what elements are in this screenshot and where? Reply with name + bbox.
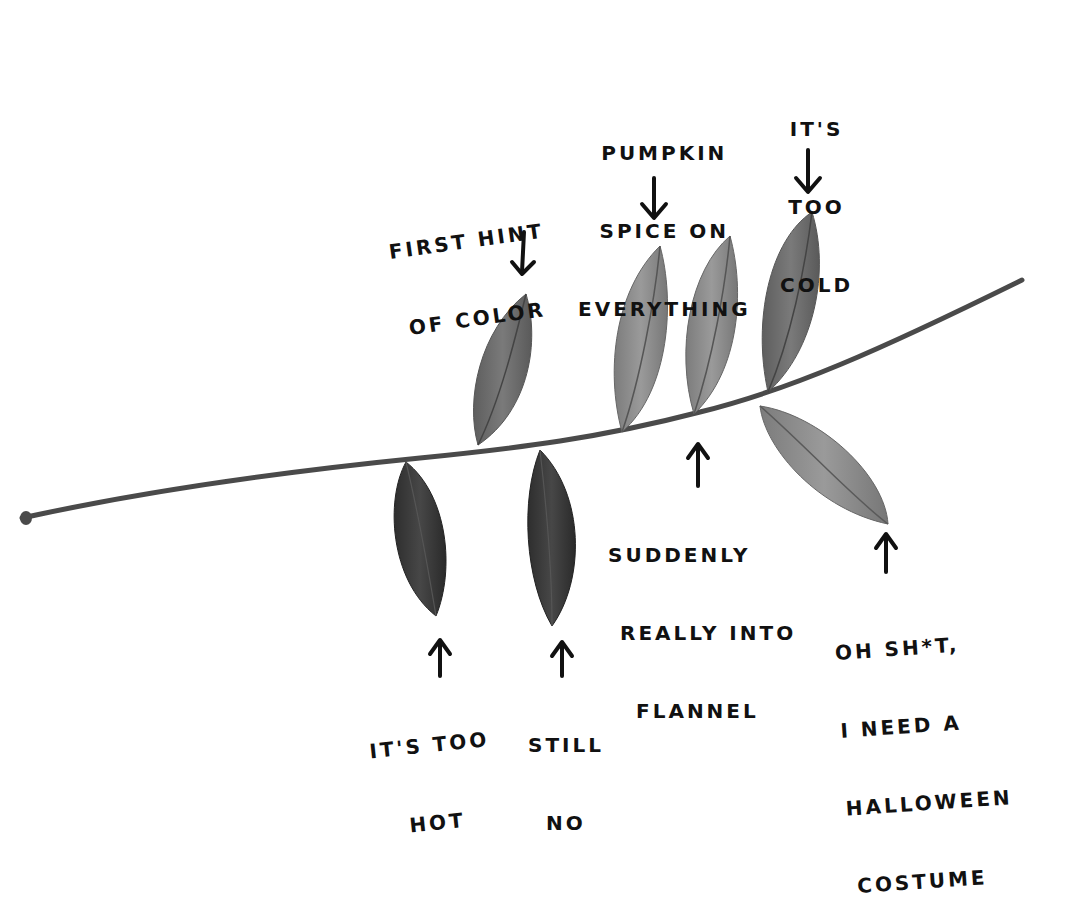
stem-end <box>20 511 32 525</box>
arrow-up-halloween <box>876 534 896 572</box>
label-halloween-costume: OH SH*T, I NEED A HALLOWEEN COSTUME <box>830 577 1020 897</box>
leaf-still-no <box>528 450 576 626</box>
label-still-no: STILL NO <box>528 680 604 862</box>
arrow-up-too-hot <box>430 640 450 676</box>
leaf-too-hot <box>394 462 446 616</box>
label-suddenly-into-flannel: SUDDENLY REALLY INTO FLANNEL <box>608 490 796 750</box>
arrow-up-still-no <box>552 642 572 676</box>
arrow-up-flannel <box>688 444 708 486</box>
label-pumpkin-spice: PUMPKIN SPICE ON EVERYTHING <box>578 88 751 348</box>
label-too-hot: IT'S TOO HOT <box>363 674 502 868</box>
label-too-cold: IT'S TOO COLD <box>780 64 853 324</box>
label-first-hint-of-color: FIRST HINT OF COLOR <box>380 166 560 368</box>
